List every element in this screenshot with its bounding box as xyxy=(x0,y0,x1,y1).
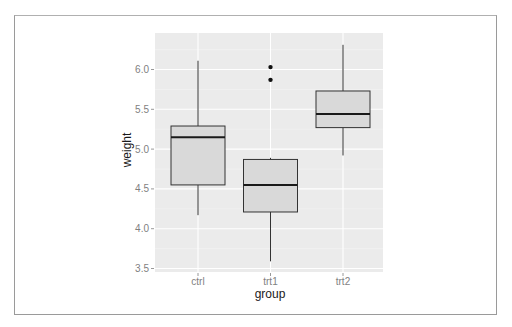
box-iqr xyxy=(171,126,225,185)
y-axis: 3.54.04.55.05.56.0 xyxy=(135,64,154,274)
y-tick-label: 6.0 xyxy=(135,64,149,75)
outlier-point xyxy=(268,78,272,82)
y-tick-label: 5.5 xyxy=(135,104,149,115)
outlier-point xyxy=(268,65,272,69)
x-tick-label: trt2 xyxy=(336,276,351,287)
x-tick-label: trt1 xyxy=(263,276,278,287)
y-tick-label: 4.0 xyxy=(135,223,149,234)
y-tick-label: 3.5 xyxy=(135,263,149,274)
x-axis: ctrltrt1trt2 xyxy=(191,273,350,287)
y-tick-label: 4.5 xyxy=(135,183,149,194)
x-axis-title: group xyxy=(255,287,286,301)
box-iqr xyxy=(316,91,370,128)
x-tick-label: ctrl xyxy=(191,276,204,287)
y-axis-title: weight xyxy=(120,132,134,168)
y-tick-label: 5.0 xyxy=(135,144,149,155)
boxplot-chart: 3.54.04.55.05.56.0 ctrltrt1trt2 group we… xyxy=(0,0,512,327)
